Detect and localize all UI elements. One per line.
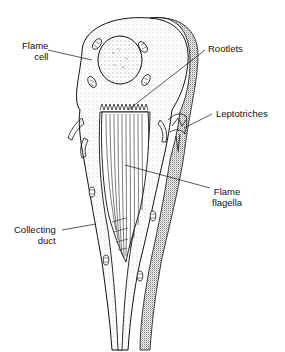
- label-leptotriches: Leptotriches: [216, 108, 268, 119]
- label-flame-flagella-line2: flagella: [212, 197, 242, 208]
- label-collecting-duct: Collecting duct: [14, 224, 56, 246]
- label-collecting-duct-line1: Collecting: [14, 224, 56, 235]
- label-flame-flagella-line1: Flame: [212, 186, 242, 197]
- nucleus: [98, 36, 142, 84]
- label-collecting-duct-line2: duct: [14, 235, 56, 246]
- label-flame-cell-line1: Flame: [22, 40, 48, 51]
- label-flame-flagella: Flame flagella: [212, 186, 242, 208]
- label-rootlets: Rootlets: [208, 43, 243, 54]
- label-flame-cell-line2: cell: [22, 51, 48, 62]
- label-flame-cell: Flame cell: [22, 40, 48, 62]
